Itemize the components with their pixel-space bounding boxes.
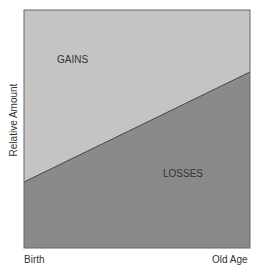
gains-label: GAINS: [57, 54, 88, 65]
gains-losses-diagram: GAINS LOSSES Relative Amount Birth Old A…: [0, 0, 255, 272]
x-axis-start-label: Birth: [24, 254, 45, 265]
x-axis-end-label: Old Age: [212, 254, 248, 265]
losses-label: LOSSES: [163, 168, 203, 179]
diagram-canvas: [0, 0, 255, 272]
y-axis-label: Relative Amount: [8, 84, 19, 157]
